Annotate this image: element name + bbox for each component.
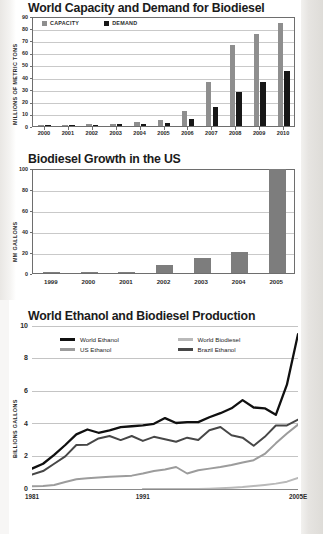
y-tick-label: 30 <box>0 87 28 93</box>
legend-label-capacity: CAPACITY <box>50 20 79 26</box>
y-tick-mark <box>30 211 33 212</box>
x-tick-label: 2005 <box>152 130 176 136</box>
y-tick-mark <box>30 78 33 79</box>
gridline <box>33 254 294 255</box>
y-tick-label: 80 <box>0 26 28 32</box>
x-tick-label: 2003 <box>187 278 215 285</box>
legend-row: US EthanolBrazil Ethanol <box>60 346 290 353</box>
x-tick-mark <box>68 127 69 130</box>
x-tick-label: 2003 <box>104 130 128 136</box>
x-tick-label: 2001 <box>56 130 80 136</box>
legend-item-capacity: CAPACITY <box>42 20 79 26</box>
chart-legend: World EthanolWorld BiodieselUS EthanolBr… <box>60 336 290 356</box>
bar-demand-2006 <box>189 119 194 126</box>
gridline <box>33 212 294 213</box>
y-tick-label: 60 <box>0 50 28 56</box>
x-tick-mark <box>211 127 212 130</box>
y-tick-label: 4 <box>0 420 28 427</box>
y-tick-mark <box>30 127 33 128</box>
y-tick-mark <box>30 253 33 254</box>
y-tick-label: 6 <box>0 387 28 394</box>
x-tick-label: 2004 <box>225 278 253 285</box>
bar-2004 <box>231 252 248 273</box>
y-tick-mark <box>30 54 33 55</box>
y-tick-label: 10 <box>0 111 28 117</box>
x-tick-label: 2005 <box>262 278 290 285</box>
bar-capacity-2003 <box>110 124 115 126</box>
y-tick-mark <box>30 41 33 42</box>
bar-2002 <box>156 265 173 273</box>
gridline <box>33 233 294 234</box>
y-tick-mark <box>30 190 33 191</box>
x-tick-label: 2006 <box>175 130 199 136</box>
bar-demand-2001 <box>69 125 74 126</box>
y-tick-label: 2 <box>0 452 28 459</box>
bar-demand-2010 <box>284 71 289 126</box>
bar-1999 <box>43 272 60 274</box>
bar-capacity-2000 <box>38 125 43 126</box>
legend-label-demand: DEMAND <box>112 20 137 26</box>
x-tick-label: 2009 <box>247 130 271 136</box>
y-tick-label: 90 <box>0 14 28 20</box>
bar-2003 <box>194 258 211 273</box>
y-tick-mark <box>30 115 33 116</box>
bar-demand-2004 <box>141 124 146 126</box>
y-tick-mark <box>30 29 33 30</box>
y-tick-mark <box>30 274 33 275</box>
gridline <box>33 30 294 31</box>
legend-row: World EthanolWorld Biodiesel <box>60 336 290 343</box>
y-tick-label: 40 <box>0 229 28 235</box>
chart-title: Biodiesel Growth in the US <box>28 152 181 166</box>
y-tick-mark <box>30 17 33 18</box>
chart-world-production: World Ethanol and Biodiesel Production B… <box>0 308 310 534</box>
chart-capacity-demand: World Capacity and Demand for Biodiesel … <box>0 0 305 150</box>
legend-item-world-biodiesel: World Biodiesel <box>178 336 291 343</box>
chart-legend: CAPACITYDEMAND <box>42 20 159 26</box>
x-tick-label: 2002 <box>80 130 104 136</box>
bar-capacity-2007 <box>206 82 211 126</box>
bar-2000 <box>81 272 98 274</box>
y-tick-label: 40 <box>0 75 28 81</box>
legend-item-us-ethanol: US Ethanol <box>60 346 173 353</box>
line-brazil-ethanol <box>32 420 298 475</box>
x-tick-label: 1999 <box>37 278 65 285</box>
legend-label-world-ethanol: World Ethanol <box>80 336 119 343</box>
x-tick-mark <box>187 127 188 130</box>
x-tick-label: 2001 <box>112 278 140 285</box>
bar-demand-2007 <box>213 107 218 126</box>
x-tick-label: 2005E <box>282 493 314 500</box>
legend-swatch-demand <box>104 21 109 26</box>
legend-item-brazil-ethanol: Brazil Ethanol <box>178 346 291 353</box>
legend-line-world-ethanol <box>60 338 75 340</box>
chart-us-growth: Biodiesel Growth in the US MM GALLONS 02… <box>0 152 305 307</box>
x-tick-label: 1991 <box>127 493 159 500</box>
x-tick-mark <box>283 127 284 130</box>
y-tick-label: 60 <box>0 208 28 214</box>
legend-label-us-ethanol: US Ethanol <box>80 346 111 353</box>
y-tick-label: 80 <box>0 187 28 193</box>
x-tick-label: 2004 <box>128 130 152 136</box>
bar-demand-2003 <box>117 124 122 126</box>
y-tick-mark <box>30 232 33 233</box>
line-us-ethanol <box>32 425 298 487</box>
bar-capacity-2006 <box>182 111 187 126</box>
y-tick-label: 50 <box>0 62 28 68</box>
x-tick-label: 2008 <box>223 130 247 136</box>
bar-2001 <box>118 272 135 274</box>
legend-label-brazil-ethanol: Brazil Ethanol <box>198 346 236 353</box>
chart-title: World Capacity and Demand for Biodiesel <box>28 1 265 15</box>
bar-capacity-2004 <box>134 122 139 126</box>
bar-demand-2008 <box>236 92 241 126</box>
legend-line-world-biodiesel <box>178 338 193 340</box>
y-tick-label: 10 <box>0 322 28 329</box>
x-tick-label: 1981 <box>16 493 48 500</box>
y-tick-mark <box>30 90 33 91</box>
y-tick-label: 0 <box>0 485 28 492</box>
y-tick-label: 100 <box>0 166 28 172</box>
legend-swatch-capacity <box>42 21 47 26</box>
line-world-biodiesel <box>143 478 298 489</box>
y-tick-label: 0 <box>0 271 28 277</box>
bar-capacity-2005 <box>158 120 163 126</box>
x-tick-mark <box>259 127 260 130</box>
legend-item-world-ethanol: World Ethanol <box>60 336 173 343</box>
